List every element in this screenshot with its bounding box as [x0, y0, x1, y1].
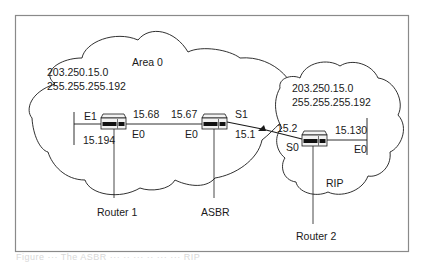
router-2-s0-label: S0: [286, 141, 299, 153]
area0-name: Area 0: [132, 56, 163, 68]
router-1-icon[interactable]: [101, 114, 126, 129]
asbr-s1-label: S1: [235, 108, 248, 120]
rip-mask: 255.255.255.192: [292, 96, 371, 108]
router-2-s0-addr: 15.2: [277, 122, 298, 134]
router-1-label: Router 1: [97, 206, 137, 218]
router-2-e0-label: E0: [354, 143, 367, 155]
rip-network: 203.250.15.0: [292, 82, 353, 94]
rip-name: RIP: [326, 177, 344, 189]
router-1-e0-addr: 15.68: [133, 108, 159, 120]
asbr-e0-label: E0: [185, 128, 198, 140]
network-diagram: Area 0 203.250.15.0 255.255.255.192 E1 1…: [0, 0, 423, 264]
router-1-e1-addr: 15.194: [83, 134, 115, 146]
router-1-e1-label: E1: [84, 110, 97, 122]
area0-network: 203.250.15.0: [47, 66, 108, 78]
asbr-s1-addr: 15.1: [235, 128, 256, 140]
router-2-icon[interactable]: [302, 131, 327, 146]
router-2-label: Router 2: [296, 230, 336, 242]
router-1-e0-label: E0: [132, 128, 145, 140]
asbr-router-icon[interactable]: [202, 114, 227, 129]
asbr-e0-addr: 15.67: [171, 108, 197, 120]
area0-mask: 255.255.255.192: [47, 80, 126, 92]
figure-caption: Figure ··· The ASBR ··· ·· ··· ·· ··· ··…: [16, 252, 316, 264]
asbr-label: ASBR: [201, 206, 230, 218]
router-2-e0-addr: 15.130: [335, 124, 367, 136]
